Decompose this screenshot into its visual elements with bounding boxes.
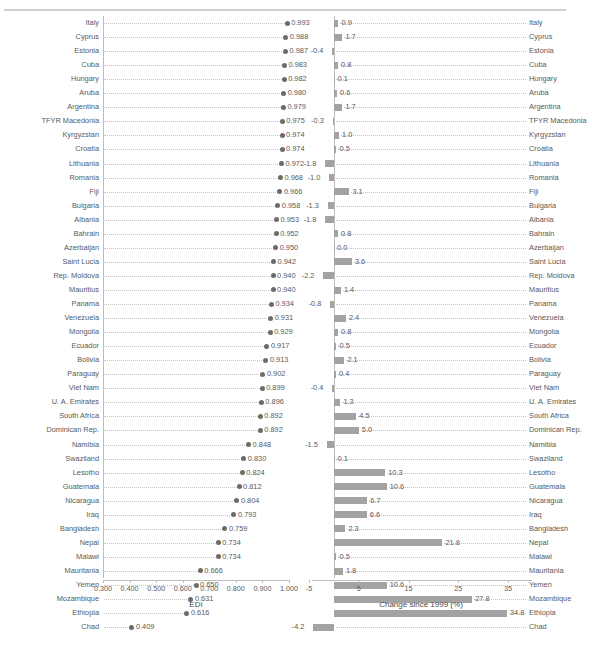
edi-data-point[interactable] [234, 498, 239, 503]
change-bar[interactable] [334, 455, 335, 462]
edi-data-point[interactable] [268, 330, 273, 335]
change-bar[interactable] [334, 329, 338, 336]
edi-data-point[interactable] [198, 568, 203, 573]
change-bar[interactable] [334, 287, 341, 294]
change-bar[interactable] [328, 202, 334, 209]
edi-data-point[interactable] [216, 554, 221, 559]
left-axis-tick-label: 0.500 [147, 584, 165, 593]
edi-data-point[interactable] [279, 161, 284, 166]
change-bar[interactable] [334, 539, 442, 546]
edi-data-point[interactable] [281, 105, 286, 110]
change-barchart-panel: 0.9Italy1.7Cyprus-0.4Estonia0.8Cuba0.1Hu… [312, 16, 570, 616]
change-bar[interactable] [332, 385, 334, 392]
right-x-axis-line [312, 580, 532, 581]
change-bar[interactable] [334, 146, 336, 153]
change-bar[interactable] [334, 497, 367, 504]
edi-data-point[interactable] [278, 175, 283, 180]
edi-data-point[interactable] [271, 273, 276, 278]
change-bar[interactable] [334, 258, 352, 265]
change-bar[interactable] [334, 230, 338, 237]
change-bar[interactable] [334, 357, 344, 364]
edi-category-label: Cuba [0, 58, 99, 72]
edi-data-point[interactable] [268, 316, 273, 321]
edi-data-point[interactable] [258, 414, 263, 419]
change-category-label: Dominican Rep. [529, 423, 592, 437]
edi-data-point[interactable] [273, 245, 278, 250]
change-bar[interactable] [334, 62, 338, 69]
change-bar[interactable] [323, 272, 334, 279]
edi-data-point[interactable] [184, 611, 189, 616]
edi-data-point[interactable] [260, 372, 265, 377]
change-bar[interactable] [334, 525, 345, 532]
edi-data-point[interactable] [280, 119, 285, 124]
change-bar[interactable] [334, 132, 339, 139]
edi-data-point[interactable] [237, 484, 242, 489]
edi-data-point[interactable] [271, 259, 276, 264]
edi-data-point[interactable] [274, 217, 279, 222]
change-bar[interactable] [332, 48, 334, 55]
change-bar[interactable] [334, 104, 342, 111]
change-bar[interactable] [334, 76, 335, 83]
change-bar[interactable] [334, 244, 335, 251]
edi-data-point[interactable] [246, 442, 251, 447]
edi-row: Estonia0.987 [0, 44, 312, 58]
edi-data-point[interactable] [275, 203, 280, 208]
change-bar[interactable] [313, 624, 334, 631]
edi-data-point[interactable] [285, 21, 290, 26]
edi-data-point[interactable] [283, 49, 288, 54]
edi-data-point[interactable] [258, 428, 263, 433]
change-bar[interactable] [334, 188, 349, 195]
edi-data-point[interactable] [241, 456, 246, 461]
change-bar[interactable] [330, 301, 334, 308]
edi-data-point[interactable] [240, 470, 245, 475]
edi-data-point[interactable] [260, 386, 265, 391]
change-bar[interactable] [325, 160, 334, 167]
edi-data-point[interactable] [282, 77, 287, 82]
change-bar[interactable] [334, 343, 336, 350]
edi-data-point[interactable] [129, 625, 134, 630]
change-bar[interactable] [334, 427, 359, 434]
edi-data-point[interactable] [263, 358, 268, 363]
change-bar[interactable] [334, 20, 338, 27]
edi-data-point[interactable] [222, 526, 227, 531]
edi-data-point[interactable] [216, 540, 221, 545]
left-axis-tick-label: 0.400 [121, 584, 139, 593]
change-bar[interactable] [325, 216, 334, 223]
edi-data-point[interactable] [283, 35, 288, 40]
right-axis-tick [359, 580, 360, 583]
edi-data-point[interactable] [269, 302, 274, 307]
change-bar[interactable] [334, 34, 342, 41]
change-bar[interactable] [334, 399, 340, 406]
edi-data-point[interactable] [277, 189, 282, 194]
edi-data-point[interactable] [264, 344, 269, 349]
change-bar[interactable] [334, 371, 336, 378]
change-bar[interactable] [334, 315, 346, 322]
change-category-label: Yemen [529, 578, 592, 592]
edi-value-label: 0.988 [290, 30, 309, 44]
change-bar[interactable] [334, 413, 356, 420]
change-leader-line [339, 93, 526, 95]
change-bar[interactable] [334, 568, 343, 575]
change-bar[interactable] [334, 469, 385, 476]
change-leader-line [387, 473, 526, 475]
edi-category-label: Ecuador [0, 339, 99, 353]
edi-data-point[interactable] [282, 63, 287, 68]
change-bar[interactable] [334, 610, 507, 617]
edi-data-point[interactable] [271, 287, 276, 292]
edi-data-point[interactable] [259, 400, 264, 405]
change-bar[interactable] [327, 441, 334, 448]
edi-data-point[interactable] [280, 133, 285, 138]
edi-data-point[interactable] [274, 231, 279, 236]
change-bar[interactable] [334, 553, 336, 560]
change-bar[interactable] [334, 483, 387, 490]
change-value-label: 0.8 [341, 58, 351, 72]
change-bar[interactable] [334, 90, 337, 97]
edi-data-point[interactable] [231, 512, 236, 517]
change-bar[interactable] [334, 511, 367, 518]
change-value-label: -0.4 [311, 44, 324, 58]
edi-data-point[interactable] [281, 91, 286, 96]
change-bar[interactable] [329, 174, 334, 181]
change-bar[interactable] [333, 118, 334, 125]
edi-data-point[interactable] [194, 583, 199, 588]
edi-data-point[interactable] [280, 147, 285, 152]
